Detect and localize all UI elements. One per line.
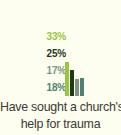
bar-4 — [80, 78, 84, 96]
value-label-3: 17% — [0, 62, 66, 79]
value-label-stack: 33% 25% 17% 18% — [0, 28, 66, 96]
bar-3-fill — [75, 79, 79, 96]
infographic-bar-chart: 33% 25% 17% 18% Have sought a church's h… — [0, 0, 121, 135]
value-label-2: 25% — [0, 45, 66, 62]
value-label-1: 33% — [0, 28, 66, 45]
caption: Have sought a church's help for trauma — [0, 99, 121, 132]
value-label-4: 18% — [0, 79, 66, 96]
caption-line-2: help for trauma — [0, 116, 121, 133]
bar-1 — [65, 62, 69, 96]
bar-cluster — [65, 55, 84, 96]
bar-3 — [75, 79, 79, 96]
caption-line-1: Have sought a church's — [0, 99, 121, 116]
bar-2 — [70, 70, 74, 96]
bar-4-fill — [80, 78, 84, 96]
bar-1-fill — [65, 62, 69, 96]
bar-2-fill — [70, 70, 74, 96]
